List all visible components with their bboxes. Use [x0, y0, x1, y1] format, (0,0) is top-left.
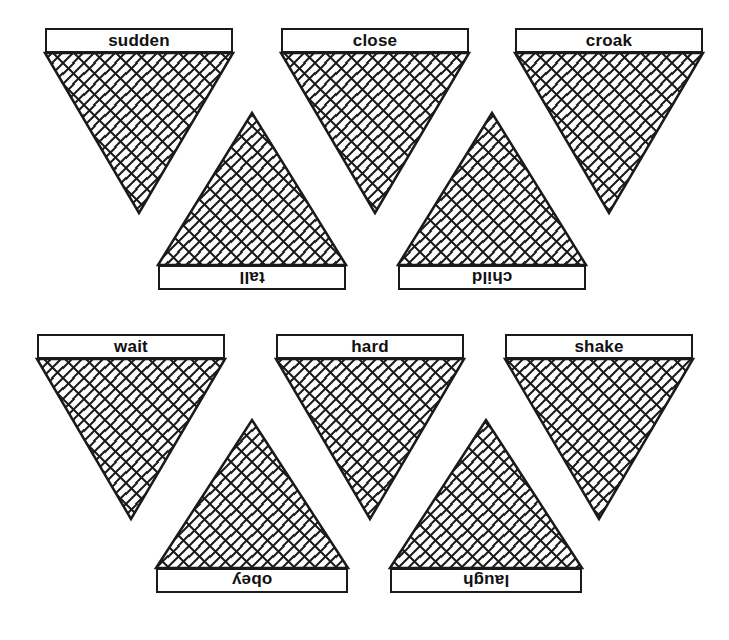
shape-label-bar[interactable]: shake: [505, 334, 693, 359]
shape-label-text: close: [353, 32, 397, 49]
shape-label-bar[interactable]: close: [281, 28, 469, 53]
shape-label-text: laugh: [463, 572, 509, 589]
triangle-hatch-fill: [276, 359, 464, 519]
shape-label-bar[interactable]: tall: [158, 265, 346, 290]
shape-label-text: tall: [239, 269, 264, 286]
shape-label-bar[interactable]: hard: [276, 334, 464, 359]
shape-label-bar[interactable]: child: [398, 265, 586, 290]
shape-label-bar[interactable]: croak: [515, 28, 703, 53]
shape-label-bar[interactable]: laugh: [390, 568, 582, 593]
shape-label-bar[interactable]: sudden: [45, 28, 233, 53]
shape-label-text: wait: [114, 338, 148, 355]
triangle-hatch-fill: [156, 420, 348, 568]
triangles-layer: [0, 0, 729, 640]
shape-label-bar[interactable]: obey: [156, 568, 348, 593]
worksheet-canvas: suddenclosecroaktallchildwaithardshakeob…: [0, 0, 729, 640]
shape-label-text: obey: [232, 572, 272, 589]
triangle-hatch-fill: [515, 53, 703, 213]
shape-label-text: shake: [574, 338, 623, 355]
triangle-hatch-fill: [398, 113, 586, 265]
shape-label-text: croak: [586, 32, 632, 49]
triangle-hatch-fill: [37, 359, 225, 519]
shape-label-text: child: [472, 269, 513, 286]
shape-label-bar[interactable]: wait: [37, 334, 225, 359]
triangle-hatch-fill: [281, 53, 469, 213]
triangle-hatch-fill: [158, 113, 346, 265]
shape-label-text: hard: [351, 338, 389, 355]
shape-label-text: sudden: [108, 32, 170, 49]
